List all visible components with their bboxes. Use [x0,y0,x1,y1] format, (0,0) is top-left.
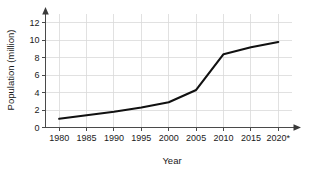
x-tick-label: 1995 [131,133,151,143]
line-chart-figure: 024681012 198019851990199520002005201020… [0,0,311,178]
x-tick-label: 2005 [186,133,206,143]
y-tick-label: 4 [34,88,39,98]
y-tick-label: 2 [34,105,39,115]
x-tick-label: 2000 [159,133,179,143]
x-tick-label: 1980 [49,133,69,143]
x-tick-label: 2020* [267,133,291,143]
chart-canvas: 024681012 198019851990199520002005201020… [0,0,311,178]
y-tick-label: 10 [29,35,39,45]
x-axis-tick-labels: 198019851990199520002005201020152020* [49,133,290,143]
chart-background [0,0,311,178]
y-tick-label: 6 [34,70,39,80]
y-tick-label: 12 [29,18,39,28]
x-tick-label: 2010 [214,133,234,143]
y-tick-label: 0 [34,123,39,133]
x-tick-label: 2015 [241,133,261,143]
y-tick-label: 8 [34,53,39,63]
y-axis-title: Population (million) [5,30,16,111]
x-tick-label: 1990 [104,133,124,143]
x-tick-label: 1985 [77,133,97,143]
x-axis-title: Year [162,155,181,166]
